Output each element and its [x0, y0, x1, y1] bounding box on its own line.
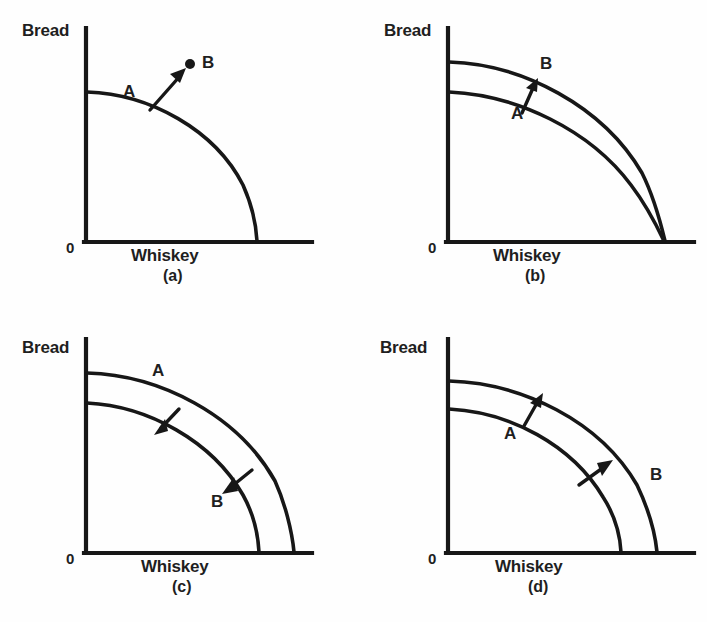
panel-caption: (a): [163, 268, 183, 284]
panel-c: Bread 0 Whiskey (c) A B: [0, 311, 353, 622]
curve-label-a: A: [123, 83, 135, 100]
shift-arrow-head: [170, 68, 186, 83]
y-axis-label: Bread: [380, 339, 427, 356]
panel-caption: (d): [528, 579, 548, 595]
ppf-curve-b: [87, 403, 259, 552]
point-b-dot: [185, 59, 195, 69]
x-axis-label: Whiskey: [131, 247, 199, 264]
origin-label: 0: [66, 240, 74, 255]
panel-a: Bread 0 Whiskey (a) A B: [0, 0, 353, 311]
curve-label-b: B: [540, 55, 552, 72]
curve-label-a: A: [511, 105, 523, 122]
y-axis-label: Bread: [22, 339, 69, 356]
shift-arrow-head-2: [222, 477, 238, 494]
shift-arrow-head-1: [530, 393, 543, 408]
shift-arrow-head-2: [597, 460, 613, 476]
panel-b: Bread 0 Whiskey (b) B A: [354, 0, 707, 311]
curve-label-a: A: [152, 362, 164, 379]
point-label-b: B: [202, 54, 214, 71]
ppf-curve-a: [449, 409, 621, 552]
curve-label-a: A: [504, 425, 516, 442]
ppf-curve-a: [449, 92, 664, 241]
curve-label-b: B: [211, 493, 223, 510]
origin-label: 0: [428, 240, 436, 255]
origin-label: 0: [66, 551, 74, 566]
ppf-curve: [87, 92, 257, 241]
panel-caption: (b): [525, 268, 545, 284]
x-axis-label: Whiskey: [141, 558, 209, 575]
shift-arrow-line: [150, 76, 180, 110]
x-axis-label: Whiskey: [493, 247, 561, 264]
origin-label: 0: [428, 551, 436, 566]
panel-d: Bread 0 Whiskey (d) A B: [354, 311, 707, 622]
ppf-curve-b: [449, 381, 657, 552]
y-axis-label: Bread: [384, 22, 431, 39]
curve-label-b: B: [650, 466, 662, 483]
ppf-curve-b: [449, 62, 665, 241]
x-axis-label: Whiskey: [495, 558, 563, 575]
ppf-figure: Bread 0 Whiskey (a) A B Bread 0 Whiskey …: [0, 0, 707, 622]
panel-caption: (c): [172, 579, 192, 595]
ppf-curve-a: [87, 373, 294, 552]
y-axis-label: Bread: [22, 22, 69, 39]
shift-arrow-line-1: [524, 403, 537, 426]
